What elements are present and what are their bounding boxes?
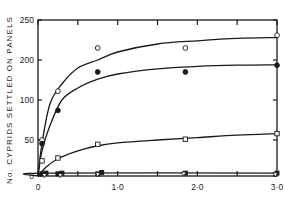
y-axis-tick-labels: 050100200250 xyxy=(20,15,34,181)
y-tick-label: 50 xyxy=(25,135,35,145)
data-point-open-triangles xyxy=(58,173,63,177)
x-tick-label: 1·0 xyxy=(112,182,125,192)
y-axis-title: No. CYPRIDS SETTLED ON PANELS xyxy=(5,16,14,184)
data-point-open-circles xyxy=(275,33,280,38)
data-point-filled-circles xyxy=(275,63,280,68)
fit-curve-open-squares xyxy=(38,134,277,176)
data-point-filled-circles xyxy=(183,70,188,75)
x-tick-label: 0 xyxy=(36,182,41,192)
data-point-open-squares xyxy=(56,156,60,160)
fit-curve-open-circles xyxy=(38,38,277,176)
fit-curves xyxy=(23,38,277,176)
data-point-open-circles xyxy=(56,89,61,94)
data-point-filled-circles xyxy=(40,141,45,146)
fit-curve-filled-circles xyxy=(38,65,277,176)
x-tick-label: 3·0 xyxy=(271,182,284,192)
data-markers xyxy=(40,33,280,178)
data-point-open-squares xyxy=(275,131,279,135)
x-tick-label: 2·0 xyxy=(191,182,204,192)
data-point-open-circles xyxy=(183,46,188,51)
data-point-open-triangles xyxy=(42,173,47,177)
data-point-open-squares xyxy=(96,142,100,146)
y-tick-label: 250 xyxy=(20,15,34,25)
data-point-filled-circles xyxy=(56,108,61,113)
y-tick-label: 100 xyxy=(20,95,34,105)
data-point-open-squares xyxy=(183,137,187,141)
chart: 01·02·03·0 050100200250 No. CYPRIDS SETT… xyxy=(0,0,285,203)
y-tick-label: 200 xyxy=(20,55,34,65)
data-point-open-circles xyxy=(95,46,100,51)
data-point-filled-circles xyxy=(95,70,100,75)
x-axis-tick-labels: 01·02·03·0 xyxy=(36,182,284,192)
data-point-open-squares xyxy=(40,159,44,163)
